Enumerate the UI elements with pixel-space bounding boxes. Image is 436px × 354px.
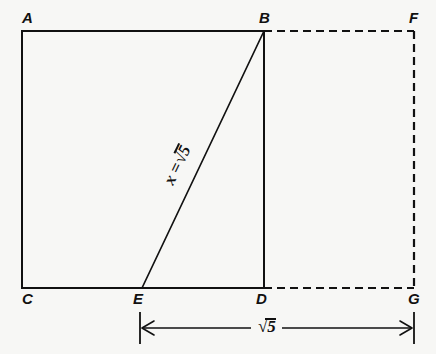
dimension-label-radicand: 5: [267, 317, 276, 336]
diagonal-E-B: [142, 31, 264, 288]
dimension-length-label: √5: [251, 318, 282, 335]
vertex-label-G: G: [408, 291, 420, 306]
vertex-label-E: E: [133, 291, 143, 306]
dimension-label-radical: √5: [257, 317, 276, 336]
diagram-canvas: [0, 0, 436, 354]
vertex-label-A: A: [22, 10, 33, 25]
vertex-label-C: C: [22, 291, 33, 306]
geometry-diagram: A B F C E D G x =√5 √5: [0, 0, 436, 354]
radical-bar: [265, 318, 276, 320]
vertex-label-D: D: [256, 291, 267, 306]
vertex-label-F: F: [409, 10, 418, 25]
vertex-label-B: B: [259, 10, 270, 25]
